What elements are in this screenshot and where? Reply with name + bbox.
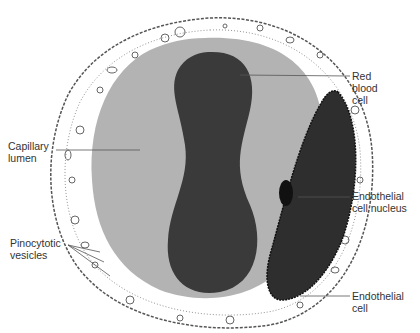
label-endothelial-nucleus: Endothelial cell nucleus: [352, 190, 407, 214]
label-pinocytotic-vesicles: Pinocytotic vesicles: [10, 237, 61, 261]
endothelial-nucleus: [279, 180, 293, 206]
label-endothelial-cell: Endothelial cell: [352, 290, 404, 314]
label-capillary-lumen: Capillary lumen: [8, 140, 49, 164]
label-red-blood-cell: Red blood cell: [352, 70, 378, 106]
capillary-diagram: [0, 0, 420, 333]
